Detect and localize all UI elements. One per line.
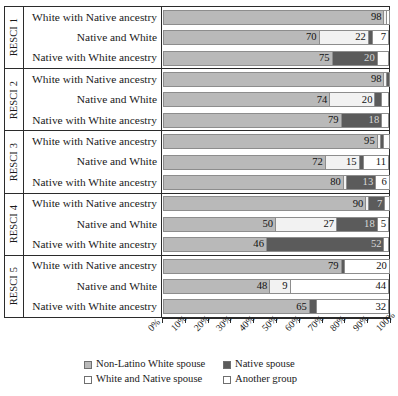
bar-segment-another-group[interactable]: 44 xyxy=(291,279,389,294)
bar-segment-white-spouse[interactable]: 75 xyxy=(163,51,333,66)
legend-item-white-native[interactable]: White and Native spouse xyxy=(84,372,223,387)
row-label-cell: Native with White ancestry xyxy=(24,297,162,317)
row-label: Native with White ancestry xyxy=(32,52,157,63)
bar-segment-another-group[interactable]: 2 xyxy=(385,196,390,211)
segment-value: 5 xyxy=(381,219,386,230)
bar-segment-white-spouse[interactable]: 70 xyxy=(163,30,320,45)
chart-row: Native with White ancestry75205 xyxy=(24,48,389,68)
bar-segment-another-group[interactable]: 5 xyxy=(378,217,389,232)
bar-segment-another-group[interactable]: 2 xyxy=(384,237,389,252)
row-label: White with Native ancestry xyxy=(32,12,157,23)
row-label: Native and White xyxy=(77,156,157,167)
stacked-bar[interactable]: 48944 xyxy=(163,279,389,294)
stacked-bar[interactable]: 65332 xyxy=(163,299,389,314)
bar-cell: 79120 xyxy=(162,256,389,276)
bar-segment-white-spouse[interactable]: 79 xyxy=(163,259,342,274)
stacked-bar[interactable]: 9811 xyxy=(163,72,389,87)
bar-segment-white-native[interactable]: 20 xyxy=(330,92,375,107)
bar-segment-white-native[interactable]: 15 xyxy=(326,155,360,170)
legend-swatch-white-spouse-icon xyxy=(84,361,92,369)
bar-segment-white-spouse[interactable]: 95 xyxy=(163,134,378,149)
bar-segment-white-spouse[interactable]: 65 xyxy=(163,299,310,314)
group-label: RESCI 5 xyxy=(9,267,20,305)
bar-segment-native-spouse[interactable]: 13 xyxy=(347,175,376,190)
bar-segment-native-spouse[interactable]: 7 xyxy=(369,196,385,211)
segment-value: 79 xyxy=(328,261,339,272)
chart-legend: Non-Latino White spouseNative spouseWhit… xyxy=(84,357,364,387)
segment-value: 22 xyxy=(355,32,366,43)
bar-segment-white-spouse[interactable]: 98 xyxy=(163,10,384,25)
legend-item-white-spouse[interactable]: Non-Latino White spouse xyxy=(84,357,223,372)
stacked-bar[interactable]: 79120 xyxy=(163,259,389,274)
bar-segment-another-group[interactable]: 7 xyxy=(373,30,389,45)
bar-segment-another-group[interactable]: 20 xyxy=(345,259,390,274)
bar-segment-white-spouse[interactable]: 98 xyxy=(163,72,384,87)
row-label-cell: White with Native ancestry xyxy=(24,131,162,151)
segment-value: 79 xyxy=(328,115,339,126)
bar-segment-another-group[interactable]: 6 xyxy=(376,175,390,190)
stacked-bar[interactable]: 79183 xyxy=(163,113,389,128)
segment-value: 13 xyxy=(363,177,374,188)
row-label-cell: White with Native ancestry xyxy=(24,69,162,89)
chart-row: Native and White702227 xyxy=(24,27,389,47)
bar-segment-white-native[interactable]: 27 xyxy=(276,217,337,232)
segment-value: 98 xyxy=(371,12,382,23)
stacked-bar[interactable]: 7215211 xyxy=(163,155,389,170)
bar-segment-white-spouse[interactable]: 50 xyxy=(163,217,276,232)
bar-segment-another-group[interactable]: 3 xyxy=(382,113,389,128)
bar-segment-another-group[interactable]: 3 xyxy=(382,92,389,107)
stacked-bar[interactable]: 46522 xyxy=(163,237,389,252)
bar-segment-white-spouse[interactable]: 74 xyxy=(163,92,330,107)
segment-value: 27 xyxy=(323,219,334,230)
bar-segment-white-native[interactable]: 9 xyxy=(270,279,290,294)
row-label-cell: White with Native ancestry xyxy=(24,256,162,276)
bar-segment-native-spouse[interactable]: 18 xyxy=(337,217,378,232)
stacked-bar-chart: RESCI 1White with Native ancestry9811Nat… xyxy=(0,0,398,396)
group-rows: White with Native ancestry9811Native and… xyxy=(24,69,389,130)
stacked-bar[interactable]: 742033 xyxy=(163,92,389,107)
segment-value: 11 xyxy=(376,157,386,168)
bar-segment-white-spouse[interactable]: 90 xyxy=(163,196,366,211)
bar-segment-another-group[interactable]: 5 xyxy=(378,51,389,66)
group-label-cell: RESCI 4 xyxy=(5,194,24,255)
segment-value: 15 xyxy=(346,157,357,168)
group-rows: White with Native ancestry9811Native and… xyxy=(24,7,389,68)
bar-segment-native-spouse[interactable]: 52 xyxy=(267,237,385,252)
row-label: Native and White xyxy=(77,281,157,292)
stacked-bar[interactable]: 702227 xyxy=(163,30,389,45)
segment-value: 50 xyxy=(262,219,273,230)
segment-value: 70 xyxy=(306,32,317,43)
stacked-bar[interactable]: 5027185 xyxy=(163,217,389,232)
chart-row: Native with White ancestry801136 xyxy=(24,172,389,192)
bar-segment-white-spouse[interactable]: 48 xyxy=(163,279,270,294)
x-axis-tick xyxy=(162,318,163,323)
bar-segment-white-spouse[interactable]: 80 xyxy=(163,175,344,190)
row-label: White with Native ancestry xyxy=(32,260,157,271)
row-label-cell: Native and White xyxy=(24,27,162,47)
segment-value: 32 xyxy=(375,302,386,313)
legend-item-another-group[interactable]: Another group xyxy=(223,372,362,387)
bar-segment-another-group[interactable]: 32 xyxy=(317,299,389,314)
stacked-bar[interactable]: 801136 xyxy=(163,175,389,190)
stacked-bar[interactable]: 90172 xyxy=(163,196,389,211)
bar-segment-white-native[interactable]: 22 xyxy=(320,30,369,45)
bar-segment-white-spouse[interactable]: 72 xyxy=(163,155,326,170)
bar-segment-native-spouse[interactable]: 3 xyxy=(310,299,317,314)
bar-segment-native-spouse[interactable]: 1 xyxy=(387,72,390,87)
stacked-bar[interactable]: 95113 xyxy=(163,134,389,149)
stacked-bar[interactable]: 75205 xyxy=(163,51,389,66)
row-label-cell: Native with White ancestry xyxy=(24,110,162,130)
bar-segment-white-spouse[interactable]: 46 xyxy=(163,237,267,252)
bar-segment-another-group[interactable]: 1 xyxy=(387,10,390,25)
legend-item-native-spouse[interactable]: Native spouse xyxy=(223,357,362,372)
bar-segment-another-group[interactable]: 11 xyxy=(364,155,389,170)
segment-value: 98 xyxy=(371,74,382,85)
bar-segment-white-spouse[interactable]: 79 xyxy=(163,113,342,128)
bar-segment-native-spouse[interactable]: 3 xyxy=(375,92,382,107)
bar-segment-another-group[interactable]: 3 xyxy=(384,134,391,149)
bar-segment-native-spouse[interactable]: 20 xyxy=(333,51,378,66)
stacked-bar[interactable]: 9811 xyxy=(163,10,389,25)
bar-segment-native-spouse[interactable]: 18 xyxy=(342,113,383,128)
row-label-cell: White with Native ancestry xyxy=(24,7,162,27)
group-label-cell: RESCI 3 xyxy=(5,131,24,192)
